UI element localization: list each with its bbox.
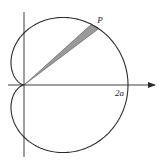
cardioid-diagram: P 2a bbox=[0, 0, 164, 161]
point-label-p: P bbox=[96, 15, 103, 25]
x-intercept-label: 2a bbox=[115, 88, 125, 98]
diagram-canvas: P 2a bbox=[0, 0, 164, 161]
shaded-sector bbox=[24, 24, 99, 85]
